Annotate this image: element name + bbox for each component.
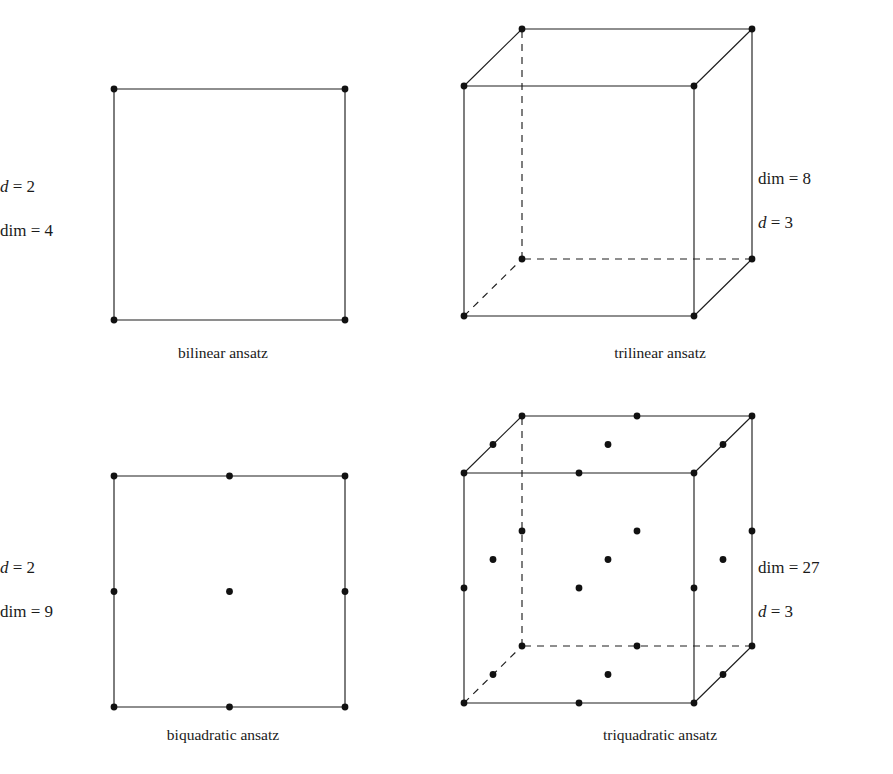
label-symbol: d [0,177,9,196]
node-dot [605,556,612,563]
label-symbol: dim [758,558,784,577]
label-value: 9 [45,602,54,621]
node-dot [749,643,756,650]
node-dot [342,86,349,93]
panel-trilinear: dim = 8d = 3trilinear ansatz [446,0,893,387]
node-dot [490,671,497,678]
label-symbol: dim [0,221,26,240]
element-drawing-bilinear [0,0,446,387]
node-dot [634,413,641,420]
edge-connect-bottom-right [694,259,752,316]
node-dot [461,700,468,707]
label-value: 3 [785,602,794,621]
label-dim-biquadratic: dim = 9 [0,603,14,620]
label-equals: = [9,177,27,196]
node-dot [749,528,756,535]
node-dot [519,643,526,650]
label-symbol: d [0,558,9,577]
label-equals: = [784,558,802,577]
label-value: 3 [785,213,794,232]
node-dot [749,413,756,420]
node-dot [749,256,756,263]
node-dot [111,473,118,480]
node-dot [691,313,698,320]
node-dot [691,585,698,592]
element-drawing-triquadratic [446,387,893,774]
node-dot [111,588,118,595]
node-dot [691,700,698,707]
label-equals: = [26,602,44,621]
edge-connect-bottom-left-hidden [464,259,522,316]
node-dot [111,317,118,324]
node-dot [342,704,349,711]
node-dot [605,671,612,678]
label-dim-triquadratic: dim = 27 [758,559,820,576]
caption-triquadratic: triquadratic ansatz [460,727,860,743]
node-dot [519,413,526,420]
node-group [111,473,349,711]
node-dot [720,671,727,678]
node-dot [490,441,497,448]
edge-connect-top-left [464,29,522,86]
label-d-triquadratic: d = 3 [758,603,793,620]
label-symbol: dim [0,602,26,621]
caption-bilinear: bilinear ansatz [0,345,446,361]
node-dot [226,704,233,711]
node-dot [226,588,233,595]
caption-trilinear: trilinear ansatz [460,345,860,361]
node-dot [342,317,349,324]
node-group [111,86,349,324]
node-dot [111,86,118,93]
node-dot [490,556,497,563]
panel-biquadratic: d = 2dim = 9biquadratic ansatz [0,387,446,774]
label-equals: = [767,213,785,232]
node-dot [576,585,583,592]
node-dot [749,26,756,33]
node-dot [519,528,526,535]
node-dot [720,556,727,563]
label-equals: = [26,221,44,240]
node-dot [691,83,698,90]
node-dot [461,313,468,320]
label-d-biquadratic: d = 2 [0,559,14,576]
label-equals: = [9,558,27,577]
node-dot [634,528,641,535]
node-dot [342,473,349,480]
node-dot [342,588,349,595]
label-value: 8 [803,169,812,188]
node-dot [461,470,468,477]
edge-connect-top-right [694,29,752,86]
node-dot [576,700,583,707]
label-symbol: d [758,602,767,621]
label-symbol: dim [758,169,784,188]
panel-triquadratic: dim = 27d = 3triquadratic ansatz [446,387,893,774]
label-d-trilinear: d = 3 [758,214,793,231]
label-value: 2 [27,177,36,196]
node-dot [519,26,526,33]
element-drawing-biquadratic [0,387,446,774]
caption-biquadratic: biquadratic ansatz [0,727,446,743]
label-value: 27 [803,558,820,577]
element-outline [114,89,345,320]
node-dot [576,470,583,477]
ansatz-figure: d = 2dim = 4bilinear ansatz dim = 8d = 3… [0,0,893,774]
label-dim-bilinear: dim = 4 [0,222,14,239]
node-dot [461,585,468,592]
label-equals: = [767,602,785,621]
node-dot [461,83,468,90]
node-dot [519,256,526,263]
label-d-bilinear: d = 2 [0,178,14,195]
element-drawing-trilinear [446,0,893,387]
label-dim-trilinear: dim = 8 [758,170,811,187]
node-dot [720,441,727,448]
node-dot [634,643,641,650]
node-dot [226,473,233,480]
label-value: 4 [45,221,54,240]
label-equals: = [784,169,802,188]
node-dot [605,441,612,448]
node-dot [691,470,698,477]
label-symbol: d [758,213,767,232]
label-value: 2 [27,558,36,577]
node-dot [111,704,118,711]
panel-bilinear: d = 2dim = 4bilinear ansatz [0,0,446,387]
